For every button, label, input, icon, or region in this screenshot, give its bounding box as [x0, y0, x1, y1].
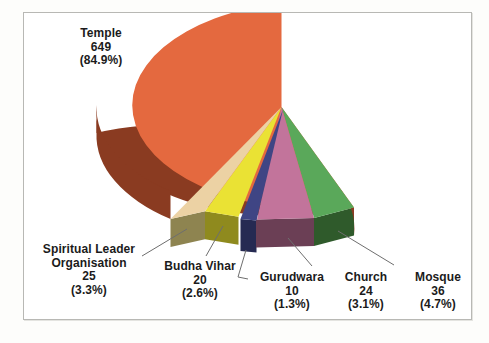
label-mosque: Mosque 36 (4.7%)	[402, 271, 472, 312]
label-church-name: Church	[330, 271, 402, 285]
label-spiritual-leader-name-2: Organisation	[23, 257, 159, 271]
slice-side-gurudwara	[241, 219, 257, 253]
label-temple-value: 649	[46, 41, 156, 55]
leader-line-mosque	[338, 231, 394, 265]
label-gurudwara-value: 10	[244, 285, 340, 299]
label-church-percent: (3.1%)	[330, 298, 402, 312]
label-gurudwara-name: Gurudwara	[244, 271, 340, 285]
label-temple-percent: (84.9%)	[46, 54, 156, 68]
label-gurudwara-percent: (1.3%)	[244, 298, 340, 312]
label-spiritual-leader-percent: (3.3%)	[23, 284, 159, 298]
label-mosque-value: 36	[402, 285, 472, 299]
label-church-value: 24	[330, 285, 402, 299]
label-mosque-name: Mosque	[402, 271, 472, 285]
label-budha-vihar: Budha Vihar 20 (2.6%)	[145, 260, 255, 301]
label-spiritual-leader: Spiritual Leader Organisation 25 (3.3%)	[23, 243, 159, 297]
chart-frame: Temple 649 (84.9%) Spiritual Leader Orga…	[23, 12, 472, 320]
label-budha-vihar-value: 20	[145, 274, 255, 288]
label-gurudwara: Gurudwara 10 (1.3%)	[244, 271, 340, 312]
label-spiritual-leader-value: 25	[23, 270, 159, 284]
label-budha-vihar-name: Budha Vihar	[145, 260, 255, 274]
label-temple-name: Temple	[46, 27, 156, 41]
label-mosque-percent: (4.7%)	[402, 298, 472, 312]
label-temple: Temple 649 (84.9%)	[46, 27, 156, 68]
label-budha-vihar-percent: (2.6%)	[145, 287, 255, 301]
slice-side-church	[256, 218, 314, 248]
label-church: Church 24 (3.1%)	[330, 271, 402, 312]
label-spiritual-leader-name-1: Spiritual Leader	[23, 243, 159, 257]
